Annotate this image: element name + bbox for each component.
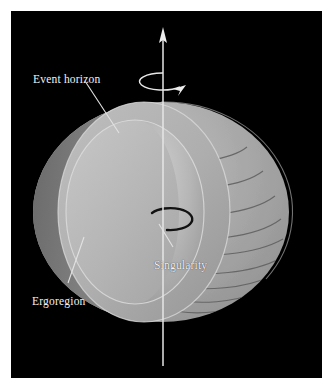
event-horizon-surface [66,120,204,304]
black-hole-diagram [11,11,322,378]
figure-frame: Event horizon Ergoregion Singularity [11,11,322,378]
figure-page: Event horizon Ergoregion Singularity [0,0,334,389]
label-ergoregion: Ergoregion [32,296,86,308]
label-event-horizon: Event horizon [33,74,100,86]
label-singularity: Singularity [154,260,207,272]
